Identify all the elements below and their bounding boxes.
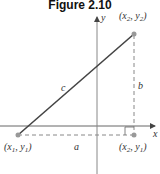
side-b-label: b	[138, 80, 143, 91]
side-c-label: c	[61, 82, 66, 93]
side-a-label: a	[74, 141, 79, 152]
point-label-x2-y2: (x2, y2)	[119, 10, 147, 23]
y-axis-label: y	[100, 12, 106, 23]
point-label-x2-y1: (x2, y1)	[119, 141, 147, 154]
right-triangle-diagram: y x c b a (x2, y2) (x1, y1) (x2, y1)	[0, 0, 160, 174]
point-x2-y2	[132, 32, 137, 37]
x-axis-label: x	[152, 128, 158, 139]
point-x2-y1	[132, 133, 137, 138]
hypotenuse-c	[18, 34, 134, 135]
point-x1-y1	[16, 133, 21, 138]
point-label-x1-y1: (x1, y1)	[4, 141, 32, 154]
